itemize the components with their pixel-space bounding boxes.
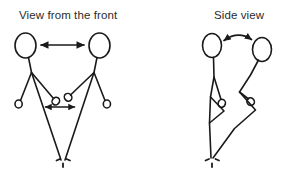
outer-hand <box>103 100 110 108</box>
torso-and-leg <box>65 58 97 161</box>
stick-figure-illustration <box>0 0 284 179</box>
torso-and-leg <box>29 58 62 161</box>
front-figure-right <box>63 33 111 160</box>
outer-hand <box>15 100 22 108</box>
front-figure-left <box>15 33 61 160</box>
head <box>15 33 36 58</box>
hip-and-knee <box>210 97 225 123</box>
outer-arm <box>94 73 105 101</box>
front-ground-mark <box>57 159 71 167</box>
head <box>203 34 222 58</box>
side-head-distance-arrow <box>224 35 252 40</box>
side-figure-right <box>213 38 272 159</box>
side-figure-left <box>203 34 227 159</box>
outer-arm <box>21 73 32 101</box>
diagram-page: View from the front Side view <box>0 0 284 179</box>
hand <box>217 98 226 108</box>
head <box>89 33 110 58</box>
side-ground-mark <box>206 159 220 167</box>
inner-arm <box>32 73 54 99</box>
torso-and-leg <box>213 60 259 158</box>
arm <box>214 77 221 100</box>
head <box>253 38 272 62</box>
torso-and-leg <box>210 58 215 159</box>
